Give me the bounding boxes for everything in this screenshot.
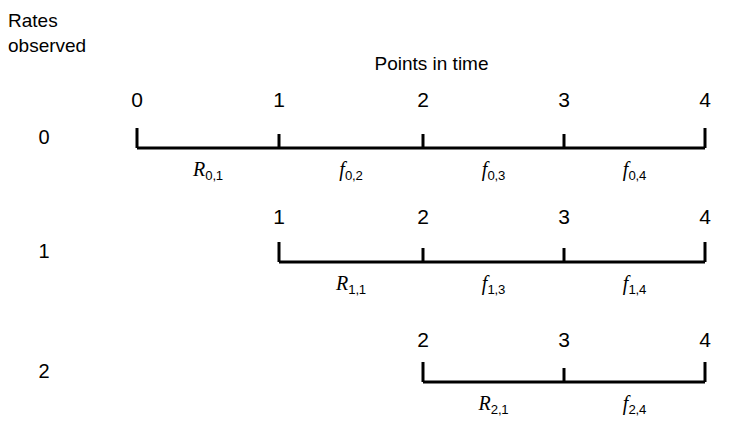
segment-label-f-0-2: f0,2 (339, 158, 362, 181)
diagram-canvas: Rates observed Points in time 001234R0,1… (0, 0, 733, 441)
tick-label-row-2-4: 4 (692, 328, 718, 352)
rates-observed-caption: Rates observed (8, 8, 86, 58)
segment-label-r-1-1: R1,1 (336, 272, 366, 295)
segment-label-r-0-1: R0,1 (193, 158, 223, 181)
segment-symbol: R (479, 392, 491, 414)
row-label-0: 0 (30, 126, 58, 149)
segment-label-f-1-4: f1,4 (623, 272, 646, 295)
tick-label-row-0-1: 1 (266, 88, 292, 112)
segment-subscript: 1,4 (628, 282, 646, 297)
segment-subscript: 0,1 (205, 168, 223, 183)
segment-symbol: f (482, 272, 488, 294)
tick-label-row-1-1: 1 (266, 205, 292, 229)
tick-label-row-0-2: 2 (410, 88, 436, 112)
tick-label-row-0-4: 4 (692, 88, 718, 112)
tick-label-row-2-3: 3 (551, 328, 577, 352)
segment-subscript: 2,4 (628, 402, 646, 417)
tick-label-row-0-3: 3 (551, 88, 577, 112)
segment-subscript: 0,4 (628, 168, 646, 183)
segment-symbol: f (339, 158, 345, 180)
caption-line-1: Rates (8, 8, 86, 33)
segment-label-f-2-4: f2,4 (623, 392, 646, 415)
tick-label-row-1-3: 3 (551, 205, 577, 229)
row-label-2: 2 (30, 360, 58, 383)
segment-symbol: f (623, 392, 629, 414)
segment-subscript: 1,1 (348, 282, 366, 297)
segment-label-r-2-1: R2,1 (479, 392, 509, 415)
row-label-1: 1 (30, 240, 58, 263)
segment-subscript: 1,3 (487, 282, 505, 297)
segment-subscript: 0,2 (345, 168, 363, 183)
chart-title-text: Points in time (374, 53, 488, 74)
tick-label-row-2-2: 2 (410, 328, 436, 352)
page-title: Points in time (0, 53, 733, 75)
tick-label-row-1-2: 2 (410, 205, 436, 229)
segment-label-f-0-3: f0,3 (482, 158, 505, 181)
segment-symbol: R (336, 272, 348, 294)
segment-label-f-1-3: f1,3 (482, 272, 505, 295)
segment-symbol: f (482, 158, 488, 180)
tick-label-row-1-4: 4 (692, 205, 718, 229)
tick-label-row-0-0: 0 (124, 88, 150, 112)
segment-subscript: 2,1 (491, 402, 509, 417)
segment-symbol: f (623, 272, 629, 294)
segment-symbol: f (623, 158, 629, 180)
segment-symbol: R (193, 158, 205, 180)
segment-label-f-0-4: f0,4 (623, 158, 646, 181)
segment-subscript: 0,3 (487, 168, 505, 183)
